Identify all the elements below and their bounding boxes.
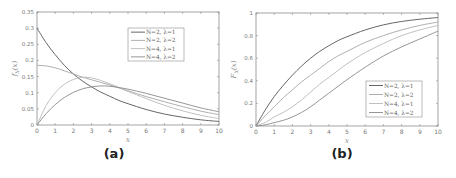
- x-tick-label: 8: [181, 127, 185, 134]
- y-tick-label: 0.2: [244, 100, 253, 106]
- y-tick-label: 0.1: [25, 90, 34, 96]
- y-axis-label: FX(x): [230, 60, 239, 79]
- x-tick-label: 3: [309, 128, 313, 135]
- legend-label: N=2, λ=2: [384, 92, 414, 98]
- y-tick-label: 0: [250, 123, 254, 129]
- x-tick-label: 0: [35, 127, 39, 134]
- legend-label: N=4, λ=1: [146, 46, 176, 52]
- x-tick-label: 4: [108, 127, 112, 134]
- legend-label: N=2, λ=1: [146, 29, 176, 35]
- y-tick-label: 0.25: [22, 41, 35, 47]
- y-tick-label: 0.2: [25, 57, 34, 63]
- x-tick-label: 2: [71, 127, 75, 134]
- x-tick-label: 6: [363, 128, 367, 135]
- y-tick-label: 0.3: [25, 25, 34, 31]
- x-tick-label: 1: [272, 128, 276, 135]
- x-tick-label: 7: [162, 127, 166, 134]
- legend-label: N=4, λ=2: [384, 110, 414, 116]
- caption-b: (b): [228, 146, 456, 161]
- x-axis-label: x: [345, 137, 349, 145]
- y-tick-label: 0.6: [244, 55, 253, 61]
- legend-label: N=2, λ=1: [384, 83, 414, 89]
- x-tick-label: 10: [215, 127, 223, 134]
- x-tick-label: 1: [53, 127, 57, 134]
- x-axis-label: x: [126, 136, 130, 144]
- panel-a: 01234567891000.050.10.150.20.250.30.35xf…: [0, 0, 228, 178]
- x-tick-label: 8: [400, 128, 404, 135]
- x-tick-label: 9: [418, 128, 422, 135]
- x-tick-label: 7: [381, 128, 385, 135]
- legend-label: N=4, λ=1: [384, 101, 414, 107]
- y-axis-label: fX(x): [11, 60, 20, 77]
- legend: N=2, λ=1N=2, λ=2N=4, λ=1N=4, λ=2: [128, 28, 184, 61]
- y-tick-label: 0: [31, 122, 35, 128]
- y-tick-label: 1: [250, 10, 254, 16]
- x-tick-label: 5: [126, 127, 130, 134]
- legend: N=2, λ=1N=2, λ=2N=4, λ=1N=4, λ=2: [366, 81, 422, 117]
- legend-label: N=4, λ=2: [146, 54, 176, 60]
- x-tick-label: 0: [254, 128, 258, 135]
- y-tick-label: 0.15: [22, 74, 35, 80]
- x-tick-label: 3: [90, 127, 94, 134]
- y-tick-label: 0.05: [22, 106, 35, 112]
- caption-a: (a): [0, 146, 228, 161]
- panel-b: 01234567891000.20.40.60.81xFX(x)N=2, λ=1…: [228, 0, 456, 178]
- y-tick-label: 0.4: [244, 78, 253, 84]
- x-tick-label: 10: [434, 128, 442, 135]
- x-tick-label: 2: [290, 128, 294, 135]
- x-tick-label: 9: [199, 127, 203, 134]
- y-tick-label: 0.35: [22, 9, 35, 15]
- legend-label: N=2, λ=2: [146, 37, 176, 43]
- y-tick-label: 0.8: [244, 33, 253, 39]
- x-tick-label: 4: [327, 128, 331, 135]
- x-tick-label: 5: [345, 128, 349, 135]
- x-tick-label: 6: [144, 127, 148, 134]
